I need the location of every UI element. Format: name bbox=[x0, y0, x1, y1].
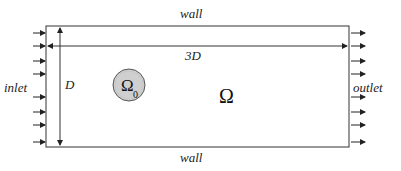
domain-label: Ω bbox=[219, 85, 234, 107]
subdomain-label: Ω bbox=[121, 76, 134, 95]
channel-flow-diagram: Ω 0 Ω wall wall 3D D inlet outlet bbox=[0, 0, 401, 171]
length-label: 3D bbox=[184, 48, 202, 63]
domain-boundary bbox=[46, 26, 349, 147]
subdomain-subscript: 0 bbox=[133, 89, 138, 100]
inlet-label: inlet bbox=[4, 80, 27, 95]
outlet-label: outlet bbox=[353, 80, 383, 95]
height-label: D bbox=[64, 77, 75, 92]
wall-bottom-label: wall bbox=[180, 150, 203, 165]
wall-top-label: wall bbox=[180, 6, 203, 21]
inlet-arrows bbox=[33, 33, 45, 142]
